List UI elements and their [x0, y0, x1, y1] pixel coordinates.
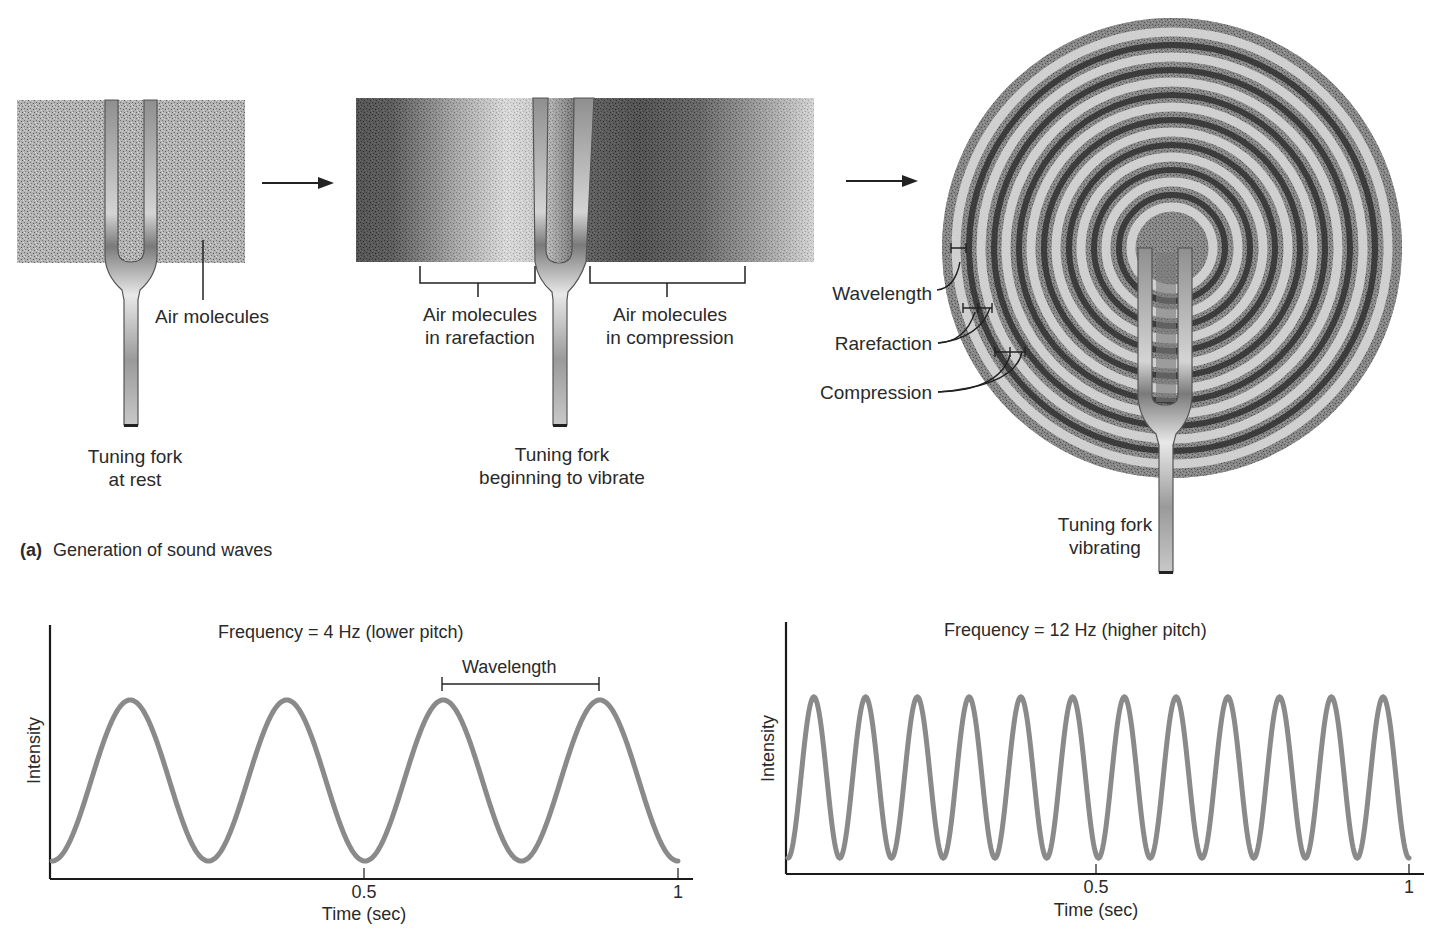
chart-4hz-axes	[50, 625, 693, 879]
chart-4hz-ylabel: Intensity	[24, 711, 45, 791]
compression-line2: in compression	[590, 326, 750, 349]
rarefaction-bracket	[420, 266, 535, 297]
wave-12hz-line	[788, 697, 1409, 858]
fork-at-rest-line1: Tuning fork	[70, 445, 200, 468]
diagram-graphics	[0, 0, 1442, 950]
fork-at-rest-line2: at rest	[70, 468, 200, 491]
arrow-right-icon	[262, 177, 334, 189]
fork-vibrating-line1: Tuning fork	[1040, 513, 1170, 536]
fork-beginning-line2: beginning to vibrate	[462, 466, 662, 489]
panel-a-caption: (a) Generation of sound waves	[20, 540, 272, 561]
fork-at-rest-label: Tuning fork at rest	[70, 445, 200, 491]
air-molecules-label: Air molecules	[155, 305, 269, 328]
chart-12hz-tick-1: 1	[1404, 877, 1414, 898]
wave-4hz-line	[52, 700, 678, 861]
fork-vibrating-label: Tuning fork vibrating	[1040, 513, 1170, 559]
wavelength-bracket	[442, 677, 599, 691]
arrow-right-icon	[846, 175, 918, 187]
rarefaction-line1: Air molecules	[400, 303, 560, 326]
wavelength-label: Wavelength	[790, 282, 932, 305]
panel-a-letter: (a)	[20, 540, 42, 560]
fork-beginning-line1: Tuning fork	[462, 443, 662, 466]
chart-12hz-xlabel: Time (sec)	[1054, 900, 1138, 921]
chart-12hz-tick-0-5: 0.5	[1083, 877, 1108, 898]
compression-label: Compression	[790, 381, 932, 404]
compression-bracket-label: Air molecules in compression	[590, 303, 750, 349]
chart-12hz-title: Frequency = 12 Hz (higher pitch)	[944, 620, 1207, 641]
rarefaction-line2: in rarefaction	[400, 326, 560, 349]
fork-beginning-label: Tuning fork beginning to vibrate	[462, 443, 662, 489]
compression-bracket	[590, 266, 745, 297]
compression-line1: Air molecules	[590, 303, 750, 326]
fork-vibrating-line2: vibrating	[1040, 536, 1170, 559]
stage1-air-block	[17, 100, 245, 263]
chart-4hz-tick-1: 1	[673, 882, 683, 903]
chart-4hz-xlabel: Time (sec)	[322, 904, 406, 925]
chart-4hz-title: Frequency = 4 Hz (lower pitch)	[218, 622, 464, 643]
chart-4hz-tick-0-5: 0.5	[351, 882, 376, 903]
chart-12hz-ylabel: Intensity	[758, 709, 779, 789]
panel-a-caption-text: Generation of sound waves	[53, 540, 272, 560]
rarefaction-bracket-label: Air molecules in rarefaction	[400, 303, 560, 349]
rarefaction-label: Rarefaction	[790, 332, 932, 355]
wavelength-annotation: Wavelength	[462, 657, 556, 678]
